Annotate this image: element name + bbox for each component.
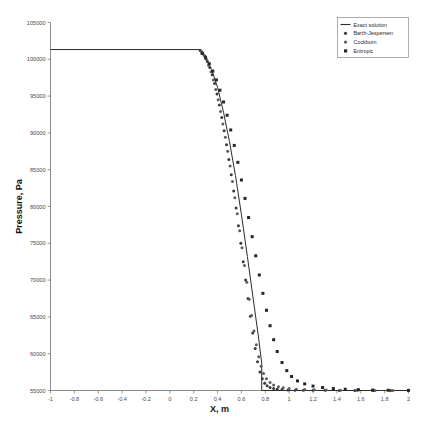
data-point xyxy=(257,355,260,358)
x-tick-label: 1.8 xyxy=(381,396,389,402)
data-point xyxy=(295,388,298,391)
data-point xyxy=(212,78,215,81)
x-tick-label: 1.4 xyxy=(333,396,341,402)
axis-frame xyxy=(51,23,409,391)
x-tick-label: -0.6 xyxy=(93,396,103,402)
data-point xyxy=(344,388,347,391)
data-point xyxy=(244,197,247,200)
y-tick-label: 95000 xyxy=(30,93,46,99)
data-point xyxy=(272,383,275,386)
data-point xyxy=(220,116,223,119)
data-point xyxy=(211,73,214,76)
data-point xyxy=(269,386,272,389)
data-point xyxy=(231,180,234,183)
x-axis-title: X, m xyxy=(210,404,229,414)
legend-marker-swatch xyxy=(344,49,347,52)
x-tick-label: -0.4 xyxy=(117,396,127,402)
data-point xyxy=(371,389,374,392)
data-point xyxy=(407,389,410,392)
data-point xyxy=(204,56,207,59)
y-tick-label: 90000 xyxy=(30,130,46,136)
legend-marker-swatch xyxy=(344,41,347,44)
data-point xyxy=(213,82,216,85)
y-tick-label: 55000 xyxy=(30,388,46,394)
data-point xyxy=(230,173,233,176)
data-point xyxy=(241,246,244,249)
x-tick-label: 2 xyxy=(407,396,410,402)
data-point xyxy=(242,260,245,263)
series-entropic xyxy=(201,52,410,392)
plot-canvas: 5500060000650007000075000800008500090000… xyxy=(0,0,421,429)
data-point xyxy=(225,143,228,146)
x-tick-label: 1.2 xyxy=(309,396,317,402)
data-point xyxy=(272,338,275,341)
data-point xyxy=(211,70,214,73)
x-tick-label: 1 xyxy=(288,396,291,402)
x-tick-label: -0.2 xyxy=(141,396,151,402)
data-point xyxy=(226,114,229,117)
data-point xyxy=(282,386,285,389)
data-point xyxy=(223,129,226,132)
data-point xyxy=(217,98,220,101)
data-point xyxy=(250,314,253,317)
data-point xyxy=(248,298,251,301)
x-tick-label: 1.6 xyxy=(357,396,365,402)
data-point xyxy=(277,385,280,388)
data-point xyxy=(214,88,217,91)
y-tick-label: 65000 xyxy=(30,314,46,320)
data-point xyxy=(296,379,299,382)
data-point xyxy=(261,292,264,295)
data-point xyxy=(240,179,243,182)
data-point xyxy=(391,389,394,392)
data-point xyxy=(215,78,218,81)
y-tick-label: 60000 xyxy=(30,351,46,357)
data-point xyxy=(303,382,306,385)
y-tick-label: 105000 xyxy=(27,20,46,26)
data-point xyxy=(227,158,230,161)
data-point xyxy=(321,386,324,389)
data-point xyxy=(236,161,239,164)
data-point xyxy=(254,254,257,257)
data-point xyxy=(233,196,236,199)
data-point xyxy=(208,62,211,65)
data-point xyxy=(332,387,335,390)
chart-figure: 5500060000650007000075000800008500090000… xyxy=(0,0,421,429)
x-tick-label: -0.8 xyxy=(70,396,80,402)
data-point xyxy=(218,103,221,106)
data-point xyxy=(235,206,238,209)
data-point xyxy=(226,150,229,153)
data-point xyxy=(281,361,284,364)
x-tick-label: 0.2 xyxy=(190,396,198,402)
data-point xyxy=(219,110,222,113)
y-axis-title: Pressure, Pa xyxy=(14,178,24,234)
series-exact-solution xyxy=(51,50,409,391)
legend-label: Exact solution xyxy=(354,22,388,28)
y-tick-label: 100000 xyxy=(27,56,46,62)
data-point xyxy=(236,212,239,215)
legend-label: Entropic xyxy=(354,48,374,54)
data-point xyxy=(229,165,232,168)
data-point xyxy=(312,385,315,388)
legend-marker-swatch xyxy=(344,32,347,35)
data-point xyxy=(252,329,255,332)
data-point xyxy=(238,229,241,232)
data-point xyxy=(221,123,224,126)
series-barth-jespersen xyxy=(199,49,410,392)
data-point xyxy=(224,136,227,139)
x-tick-label: 0.6 xyxy=(238,396,246,402)
legend-label: Barth-Jespersen xyxy=(354,30,394,36)
x-tick-label: 0.4 xyxy=(214,396,222,402)
data-point xyxy=(269,324,272,327)
data-point xyxy=(272,387,275,390)
data-point xyxy=(266,384,269,387)
data-point xyxy=(262,372,265,375)
data-point xyxy=(357,388,360,391)
data-point xyxy=(387,389,390,392)
data-point xyxy=(243,264,246,267)
x-tick-label: 0.8 xyxy=(261,396,269,402)
data-point xyxy=(239,242,242,245)
data-point xyxy=(265,377,268,380)
y-tick-label: 70000 xyxy=(30,277,46,283)
data-point xyxy=(276,350,279,353)
data-point xyxy=(265,309,268,312)
